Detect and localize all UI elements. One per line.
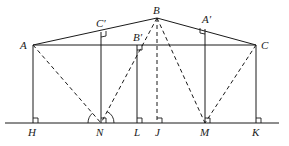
geometry-diagram: A B C C′ B′ A′ H N L J M K <box>0 0 289 146</box>
label-N: N <box>95 126 104 138</box>
label-B: B <box>153 4 160 16</box>
label-K: K <box>251 126 260 138</box>
right-angle-L-icon <box>137 118 142 123</box>
label-Aprime: A′ <box>201 13 212 25</box>
label-C: C <box>261 39 269 51</box>
label-H: H <box>27 126 37 138</box>
right-angle-H-icon <box>33 118 38 123</box>
right-angle-Bprime-icon <box>137 45 142 50</box>
dashed-BN <box>101 18 157 123</box>
right-angle-J-icon <box>157 118 162 123</box>
label-Cprime: C′ <box>96 17 106 29</box>
label-M: M <box>199 126 210 138</box>
label-A: A <box>19 39 27 51</box>
right-angle-Cprime-icon <box>101 31 106 37</box>
dashed-CM <box>205 45 256 123</box>
angle-arc-right-N-icon <box>107 112 114 124</box>
label-L: L <box>133 126 140 138</box>
dashed-BM <box>157 18 205 123</box>
dashed-AN <box>33 45 101 123</box>
label-J: J <box>155 126 161 138</box>
angle-arc-left-N-icon <box>88 113 93 123</box>
label-Bprime: B′ <box>133 31 143 43</box>
right-angle-K-icon <box>256 118 261 123</box>
